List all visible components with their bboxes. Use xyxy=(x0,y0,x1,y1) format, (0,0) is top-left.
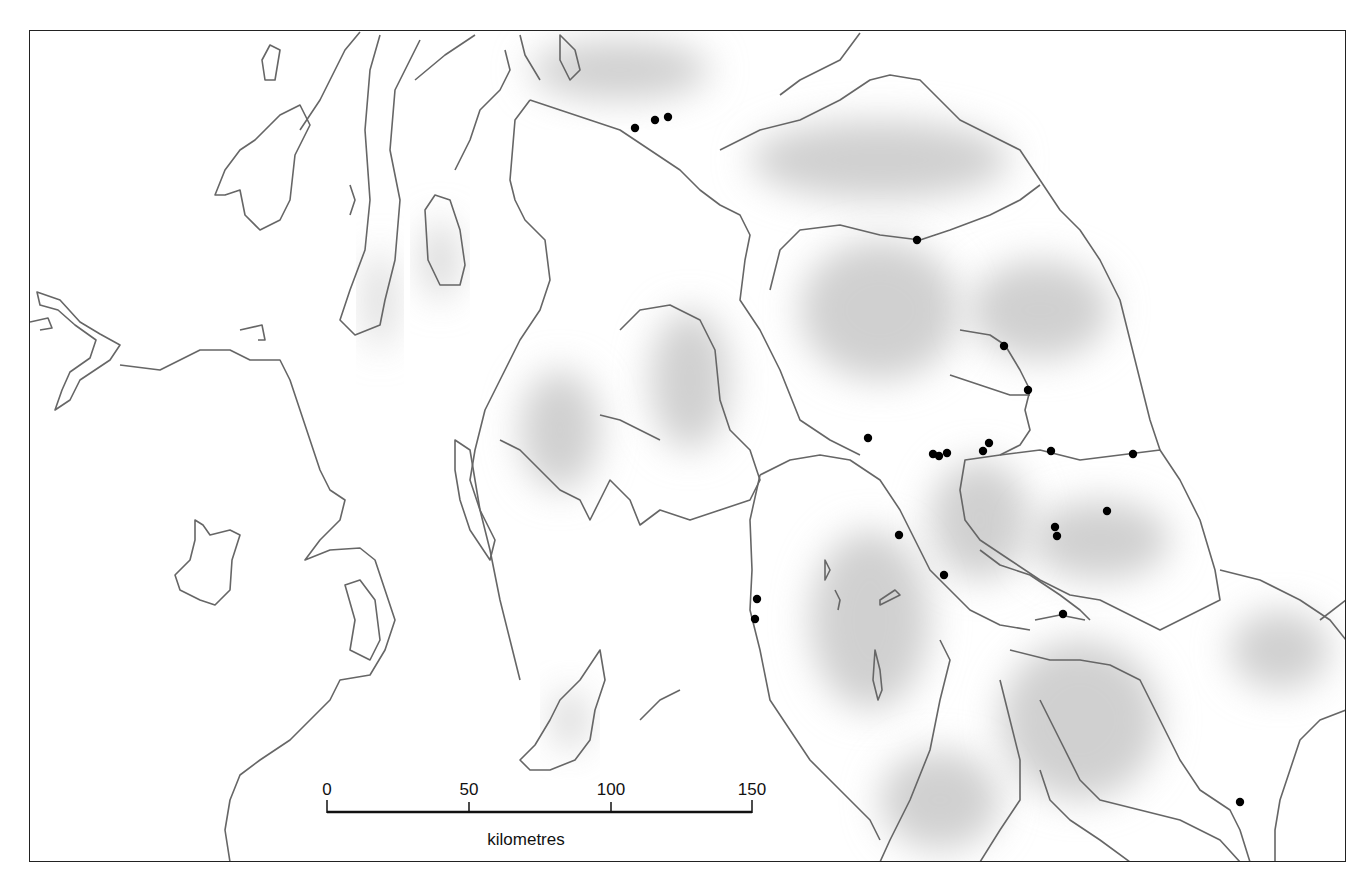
site-marker-icon xyxy=(985,439,993,447)
scale-tick-50: 50 xyxy=(460,780,479,800)
site-marker-icon xyxy=(940,571,948,579)
site-marker-icon xyxy=(1103,507,1111,515)
site-marker-icon xyxy=(1024,386,1032,394)
site-marker-icon xyxy=(1047,447,1055,455)
site-marker-icon xyxy=(1053,532,1061,540)
site-marker-icon xyxy=(979,447,987,455)
site-marker-icon xyxy=(664,113,672,121)
site-marker-icon xyxy=(1051,523,1059,531)
site-marker-icon xyxy=(864,434,872,442)
site-marker-icon xyxy=(651,116,659,124)
site-marker-icon xyxy=(935,452,943,460)
scale-tick-150: 150 xyxy=(738,780,766,800)
site-marker-icon xyxy=(1129,450,1137,458)
site-marker-icon xyxy=(753,595,761,603)
site-marker-icon xyxy=(943,449,951,457)
site-marker-icon xyxy=(895,531,903,539)
map-canvas xyxy=(0,0,1367,883)
site-marker-icon xyxy=(1059,610,1067,618)
site-marker-icon xyxy=(1000,342,1008,350)
site-marker-icon xyxy=(631,124,639,132)
site-marker-icon xyxy=(751,615,759,623)
scale-tick-0: 0 xyxy=(322,780,331,800)
site-marker-icon xyxy=(913,236,921,244)
site-marker-icon xyxy=(1236,798,1244,806)
scale-tick-100: 100 xyxy=(597,780,625,800)
scale-bar xyxy=(327,800,752,813)
scale-unit-label: kilometres xyxy=(487,830,564,850)
